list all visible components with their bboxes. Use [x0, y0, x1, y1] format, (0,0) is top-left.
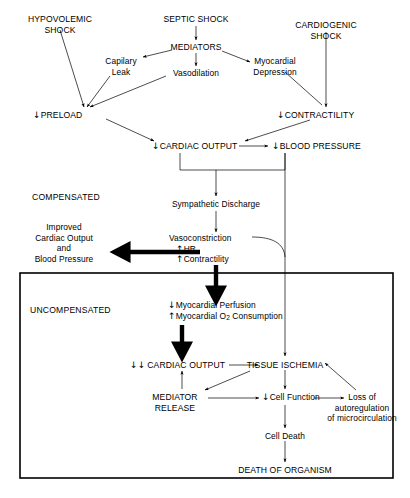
- contractility-label: CONTRACTILITY: [285, 110, 355, 120]
- node-vasoconstriction-block: Vasoconstriction ↑HR ↑Contractility: [169, 233, 231, 265]
- node-tissue-ischemia: TISSUE ISCHEMIA: [247, 360, 323, 371]
- shock-pathophysiology-diagram: HYPOVOLEMIC SHOCK SEPTIC SHOCK CARDIOGEN…: [0, 0, 410, 498]
- hypovolemic-shock-line2: SHOCK: [28, 25, 92, 36]
- cardiogenic-shock-line1: CARDIOGENIC: [295, 20, 357, 31]
- contractility-row: ↑Contractility: [169, 254, 231, 265]
- myocardial-o2-pre: Myocardial O: [176, 311, 227, 321]
- hypovolemic-shock-line1: HYPOVOLEMIC: [28, 14, 92, 25]
- down-arrow-icon: ↓: [152, 141, 160, 151]
- down-arrow-icon: ↓: [168, 300, 176, 310]
- node-death-of-organism: DEATH OF ORGANISM: [238, 465, 332, 476]
- down-arrow-icon: ↓: [277, 110, 285, 120]
- compensated-label: COMPENSATED: [32, 192, 100, 202]
- mediator-release-line1: MEDIATOR: [152, 392, 197, 403]
- node-cell-death: Cell Death: [265, 431, 305, 442]
- node-loss-of-autoregulation: Loss of autoregulation of microcirculati…: [327, 392, 396, 424]
- down-arrow-icon: ↓: [262, 392, 270, 402]
- node-cardiac-output: ↓CARDIAC OUTPUT: [152, 141, 237, 152]
- improved-line1: Improved: [35, 222, 94, 233]
- myocardial-perfusion-label: Myocardial Perfusion: [176, 300, 256, 310]
- up-arrow-icon: ↑: [176, 244, 184, 254]
- node-mediator-release: MEDIATOR RELEASE: [152, 392, 197, 413]
- node-mediators: MEDIATORS: [170, 42, 221, 53]
- preload-label: PRELOAD: [41, 110, 83, 120]
- capillary-leak-line1: Capilary: [105, 56, 137, 67]
- vasoconstriction-label: Vasoconstriction: [169, 233, 231, 244]
- cardiac-output-label: CARDIAC OUTPUT: [160, 141, 238, 151]
- node-improved-cardiac-output-and-blood-pressure: Improved Cardiac Output and Blood Pressu…: [35, 222, 94, 264]
- node-cell-function: ↓Cell Function: [262, 392, 320, 403]
- cell-function-label: Cell Function: [270, 392, 320, 402]
- uncompensated-label: UNCOMPENSATED: [30, 305, 111, 315]
- mediator-release-line2: RELEASE: [152, 403, 197, 414]
- myocardial-o2-consumption-row: ↑Myocardial O2 Consumption: [168, 311, 283, 324]
- node-septic-shock: SEPTIC SHOCK: [163, 14, 228, 25]
- blood-pressure-label: BLOOD PRESSURE: [280, 141, 361, 151]
- up-arrow-icon: ↑: [176, 254, 184, 264]
- myocardial-depression-line1: Myocardial: [253, 56, 296, 67]
- cardiac-output-severe-label: CARDIAC OUTPUT: [145, 360, 225, 370]
- node-myocardial-depression: Myocardial Depression: [253, 56, 296, 77]
- node-preload: ↓PRELOAD: [33, 110, 82, 121]
- loss-auto-line3: of microcirculation: [327, 413, 396, 424]
- improved-line3: and: [35, 243, 94, 254]
- capillary-leak-line2: Leak: [105, 67, 137, 78]
- loss-auto-line1: Loss of: [327, 392, 396, 403]
- hr-label: HR: [184, 244, 196, 254]
- loss-auto-line2: autoregulation: [327, 403, 396, 414]
- double-down-arrow-icon: ↓↓: [130, 360, 145, 370]
- node-myocardial-perfusion-oxygen: ↓Myocardial Perfusion ↑Myocardial O2 Con…: [168, 300, 283, 323]
- node-contractility: ↓CONTRACTILITY: [277, 110, 354, 121]
- improved-line4: Blood Pressure: [35, 254, 94, 265]
- node-hypovolemic-shock: HYPOVOLEMIC SHOCK: [28, 14, 92, 35]
- up-arrow-icon: ↑: [168, 311, 176, 321]
- myocardial-o2-post: Consumption: [230, 311, 283, 321]
- down-arrow-icon: ↓: [272, 141, 280, 151]
- down-arrow-icon: ↓: [33, 110, 41, 120]
- node-cardiac-output-severe: ↓↓CARDIAC OUTPUT: [130, 360, 225, 371]
- node-blood-pressure: ↓BLOOD PRESSURE: [272, 141, 361, 152]
- node-sympathetic-discharge: Sympathetic Discharge: [172, 199, 260, 210]
- myocardial-depression-line2: Depression: [253, 67, 296, 78]
- node-vasodilation: Vasodilation: [173, 68, 219, 79]
- hr-row: ↑HR: [169, 244, 231, 255]
- node-cardiogenic-shock: CARDIOGENIC SHOCK: [295, 20, 357, 41]
- contractility-increase-label: Contractility: [184, 254, 229, 264]
- node-capillary-leak: Capilary Leak: [105, 56, 137, 77]
- cardiogenic-shock-line2: SHOCK: [295, 31, 357, 42]
- myocardial-perfusion-row: ↓Myocardial Perfusion: [168, 300, 283, 311]
- improved-line2: Cardiac Output: [35, 233, 94, 244]
